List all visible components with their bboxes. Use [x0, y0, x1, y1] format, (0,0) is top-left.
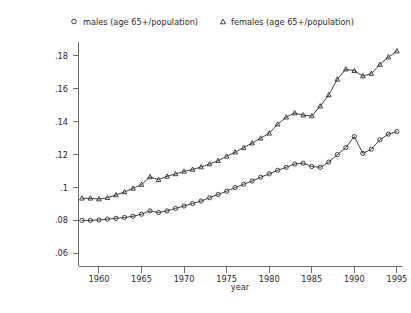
y-tick-label: .12: [55, 150, 68, 160]
y-tick-label: .08: [55, 215, 68, 225]
y-tick-label: .16: [55, 84, 68, 94]
x-tick-label: 1990: [344, 274, 365, 284]
x-tick-label: 1995: [386, 274, 407, 284]
y-tick-label: .1: [60, 183, 68, 193]
x-tick-label: 1970: [174, 274, 195, 284]
legend-label-males: males (age 65+/population): [83, 17, 198, 27]
series-line: [82, 51, 397, 199]
y-tick-label: .14: [55, 117, 68, 127]
chart-container: males (age 65+/population) females (age …: [0, 0, 411, 313]
triangle-marker-icon: [220, 19, 225, 24]
circle-marker-icon: [72, 19, 77, 24]
x-tick-label: 1980: [259, 274, 280, 284]
y-tick-label: .06: [55, 248, 68, 258]
x-tick-label: 1985: [301, 274, 322, 284]
x-axis-title: year: [231, 282, 250, 292]
line-chart: males (age 65+/population) females (age …: [0, 0, 411, 313]
y-tick-label: .18: [55, 51, 68, 61]
data-point-marker: [395, 49, 400, 53]
x-tick-label: 1965: [131, 274, 152, 284]
y-axis-ticks: .06.08.1.12.14.16.18: [55, 51, 79, 258]
chart-legend: males (age 65+/population) females (age …: [72, 17, 354, 27]
series-layer: [80, 49, 400, 223]
legend-label-females: females (age 65+/population): [231, 17, 354, 27]
x-tick-label: 1960: [89, 274, 110, 284]
series-line: [82, 132, 397, 221]
series-males: [80, 130, 399, 223]
series-females: [80, 49, 400, 201]
